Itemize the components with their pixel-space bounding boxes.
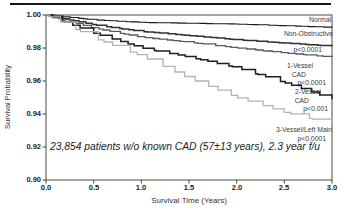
curve-2-vessel-cad	[46, 15, 332, 99]
y-tick-label: 0.92	[26, 143, 41, 151]
legend-1-vessel-label: 1-Vessel	[287, 62, 313, 69]
y-tick-label: 0.96	[26, 77, 41, 85]
curve-normal	[46, 15, 332, 27]
legend-normal-label: Normal	[309, 16, 331, 23]
x-tick-label: 0.5	[85, 184, 103, 192]
legend-non-obstructive-p-value: p<0.0001	[293, 46, 322, 53]
plot-frame	[46, 15, 332, 180]
x-tick-label: 1.5	[180, 184, 198, 192]
legend-2-vessel-label: 2-Vessel	[295, 88, 321, 95]
survival-figure: Survival Probability Survival Time (Year…	[0, 0, 347, 214]
y-tick-label: 0.98	[26, 44, 41, 52]
y-tick-label: 0.94	[26, 110, 41, 118]
x-tick-label: 3.0	[323, 184, 341, 192]
legend-non-obstructive-label: Non-Obstructive	[284, 30, 333, 37]
legend-1-vessel-p-value: p<0.0001	[297, 79, 326, 86]
legend-3-vessel-left-main-label: 3-Vessel/Left Main	[276, 126, 332, 133]
x-tick-label: 2.5	[275, 184, 293, 192]
x-tick-label: 1.0	[132, 184, 150, 192]
y-axis-title: Survival Probability	[3, 32, 13, 162]
y-tick-label: 0.90	[26, 176, 41, 184]
axis-ticks	[43, 15, 333, 184]
legend-2-vessel-p-value: p<0.001	[303, 105, 328, 112]
legend-1-vessel-cad-label: CAD	[292, 71, 306, 78]
top-divider	[10, 3, 331, 5]
x-tick-label: 2.0	[228, 184, 246, 192]
x-tick-label: 0.0	[37, 184, 55, 192]
y-tick-label: 1.00	[26, 11, 41, 19]
legend-2-vessel-cad-label: CAD	[295, 97, 309, 104]
cohort-annotation: 23,854 patients w/o known CAD (57±13 yea…	[50, 141, 335, 152]
x-axis-title: Survival Time (Years)	[116, 196, 262, 205]
